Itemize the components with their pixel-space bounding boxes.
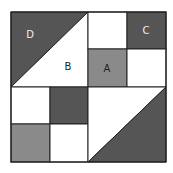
label-d: D <box>26 29 34 40</box>
label-c: C <box>143 25 150 36</box>
label-a: A <box>104 63 111 74</box>
label-b: B <box>65 61 72 72</box>
bottom-left-ul-square <box>11 87 50 124</box>
bottom-left-ur-square <box>50 87 88 124</box>
top-right-ul-square <box>88 12 127 49</box>
top-right-lr-square <box>127 49 166 87</box>
bottom-left-lr-square <box>50 124 88 162</box>
bottom-left-ll-square <box>11 124 50 162</box>
quilt-diagram: D B C A <box>0 0 173 173</box>
